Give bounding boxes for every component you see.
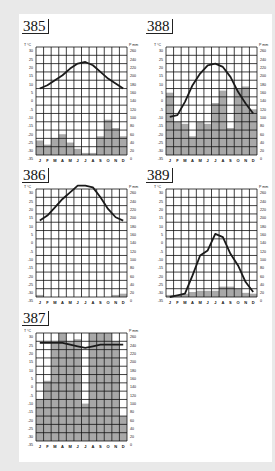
svg-text:180: 180 [260,225,266,229]
svg-text:J: J [207,300,209,305]
svg-text:120: 120 [260,250,266,254]
svg-text:-30: -30 [158,149,163,153]
svg-text:200: 200 [260,74,266,78]
svg-text:J: J [169,300,171,305]
svg-text:200: 200 [130,74,136,78]
temp-unit-label: T °C [154,185,161,189]
svg-text:0: 0 [130,443,132,447]
svg-text:120: 120 [130,394,136,398]
diagram-number: 387 [22,311,49,326]
svg-text:-35: -35 [158,299,163,303]
svg-text:M: M [198,158,202,163]
temp-unit-label: T °C [24,43,31,47]
svg-text:S: S [229,158,232,163]
svg-text:M: M [68,300,72,305]
svg-text:30: 30 [29,191,33,195]
svg-text:100: 100 [260,258,266,262]
svg-text:20: 20 [130,149,134,153]
svg-text:220: 220 [130,66,136,70]
svg-text:200: 200 [130,216,136,220]
svg-text:240: 240 [260,200,266,204]
svg-text:-10: -10 [158,258,163,262]
svg-text:40: 40 [130,427,134,431]
diagram-number: 388 [146,19,173,34]
svg-text:J: J [39,444,41,449]
svg-text:10: 10 [29,225,33,229]
svg-text:240: 240 [260,58,266,62]
svg-text:M: M [198,300,202,305]
svg-text:-5: -5 [30,394,33,398]
temp-unit-label: T °C [24,185,31,189]
svg-text:30: 30 [29,335,33,339]
svg-text:0: 0 [31,99,33,103]
svg-text:D: D [252,158,255,163]
svg-text:M: M [53,444,57,449]
svg-text:A: A [61,300,64,305]
svg-text:30: 30 [29,49,33,53]
svg-text:60: 60 [260,275,264,279]
svg-text:-10: -10 [158,116,163,120]
svg-text:N: N [114,158,117,163]
diagram-number: 386 [22,168,49,183]
svg-text:160: 160 [260,233,266,237]
svg-text:20: 20 [29,208,33,212]
svg-text:25: 25 [29,200,33,204]
svg-text:J: J [39,158,41,163]
svg-text:220: 220 [130,352,136,356]
svg-text:240: 240 [130,58,136,62]
svg-text:80: 80 [130,124,134,128]
svg-text:240: 240 [130,344,136,348]
svg-text:-30: -30 [158,291,163,295]
svg-text:-35: -35 [28,299,33,303]
svg-text:J: J [214,158,216,163]
svg-text:10: 10 [29,83,33,87]
climate-diagram-389: T °CP mm302520151050-5-10-15-20-25-30-35… [152,183,275,313]
svg-text:0: 0 [31,385,33,389]
svg-text:F: F [46,158,49,163]
svg-text:100: 100 [260,116,266,120]
svg-text:-35: -35 [158,157,163,161]
svg-text:20: 20 [159,66,163,70]
svg-text:0: 0 [130,299,132,303]
svg-text:5: 5 [31,377,33,381]
svg-text:25: 25 [29,344,33,348]
precip-unit-label: P mm [129,43,138,47]
svg-text:25: 25 [159,200,163,204]
svg-text:-15: -15 [158,124,163,128]
svg-text:0: 0 [260,157,262,161]
svg-text:J: J [84,300,86,305]
svg-text:260: 260 [260,49,266,53]
svg-text:180: 180 [130,83,136,87]
svg-text:20: 20 [130,291,134,295]
svg-text:J: J [84,444,86,449]
svg-text:140: 140 [130,241,136,245]
svg-text:M: M [53,158,57,163]
svg-text:80: 80 [260,266,264,270]
svg-text:60: 60 [260,133,264,137]
svg-text:-15: -15 [158,266,163,270]
svg-text:5: 5 [31,91,33,95]
svg-text:80: 80 [130,266,134,270]
svg-text:-20: -20 [28,419,33,423]
diagram-number: 389 [146,168,173,183]
svg-text:40: 40 [260,141,264,145]
svg-text:-10: -10 [28,258,33,262]
svg-text:5: 5 [161,91,163,95]
svg-text:5: 5 [161,233,163,237]
svg-text:140: 140 [130,99,136,103]
svg-text:160: 160 [130,233,136,237]
temp-unit-label: T °C [24,329,31,333]
svg-text:160: 160 [260,91,266,95]
svg-text:60: 60 [130,133,134,137]
svg-text:260: 260 [130,49,136,53]
svg-text:20: 20 [29,66,33,70]
svg-text:25: 25 [29,58,33,62]
svg-text:0: 0 [260,299,262,303]
svg-text:30: 30 [159,49,163,53]
svg-text:15: 15 [159,74,163,78]
svg-text:-25: -25 [28,283,33,287]
svg-text:260: 260 [130,335,136,339]
svg-text:20: 20 [260,149,264,153]
svg-text:80: 80 [260,124,264,128]
svg-text:200: 200 [130,360,136,364]
